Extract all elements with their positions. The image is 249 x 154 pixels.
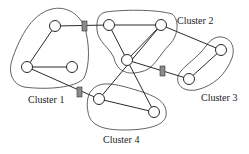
node-n9 [184,74,195,85]
cluster-4-label: Cluster 4 [103,134,139,145]
cluster-1-label: Cluster 1 [28,94,64,105]
edge-n8-n9 [189,50,221,79]
node-n8 [216,45,227,56]
node-n7 [122,55,133,66]
edge-n10-n11 [99,99,154,112]
gateway-c1-c4 [77,87,82,97]
network-cluster-diagram: Cluster 1 Cluster 2 Cluster 3 Cluster 4 [0,0,249,154]
edge-n6-n8 [161,25,221,50]
node-n6 [156,20,167,31]
cluster-2-label: Cluster 2 [177,15,213,26]
node-n2 [22,62,33,73]
edge-n6-n7 [127,25,161,60]
edge-n7-n9 [127,60,189,79]
edge-n1-n2 [27,26,55,67]
gateway-c1-c2 [82,21,87,31]
gateway-c2-c3 [160,66,165,76]
node-n11 [149,107,160,118]
node-n3 [67,62,78,73]
cluster-3-label: Cluster 3 [201,92,237,103]
node-n5 [104,20,115,31]
cluster-1-outline [11,8,89,88]
node-n1 [50,21,61,32]
node-n10 [94,94,105,105]
